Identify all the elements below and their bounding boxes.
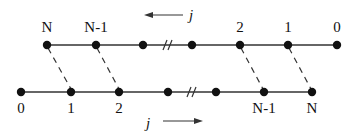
bottom-node-1 bbox=[67, 88, 75, 96]
top-node-2 bbox=[236, 41, 244, 49]
top-label-1: 1 bbox=[284, 19, 292, 35]
bottom-node-N bbox=[308, 88, 316, 96]
top-node-N-1 bbox=[92, 41, 100, 49]
top-label-N-1: N-1 bbox=[84, 19, 107, 35]
link-N bbox=[48, 48, 71, 89]
top-direction-label: j bbox=[187, 7, 193, 23]
bottom-label-0: 0 bbox=[17, 100, 25, 116]
bottom-node-0 bbox=[17, 88, 25, 96]
bottom-node-mid1 bbox=[164, 88, 172, 96]
top-node-mid1 bbox=[139, 41, 147, 49]
bottom-direction-arrow-icon bbox=[163, 118, 203, 124]
dashed-connections bbox=[48, 48, 311, 89]
bottom-label-1: 1 bbox=[67, 100, 75, 116]
top-node-mid2 bbox=[188, 41, 196, 49]
link-0 bbox=[289, 48, 311, 89]
bottom-label-N: N bbox=[307, 100, 318, 116]
link-1 bbox=[241, 48, 263, 89]
top-direction-arrow-icon bbox=[144, 12, 183, 18]
bottom-direction-label: j bbox=[144, 115, 150, 131]
bottom-label-2: 2 bbox=[115, 100, 123, 116]
top-node-N bbox=[43, 41, 51, 49]
top-label-2: 2 bbox=[236, 19, 244, 35]
top-node-1 bbox=[284, 41, 292, 49]
top-label-N: N bbox=[42, 19, 53, 35]
bottom-label-N-1: N-1 bbox=[252, 100, 275, 116]
top-node-0 bbox=[333, 41, 341, 49]
link-N-1 bbox=[97, 48, 119, 89]
lattice-diagram: N N-1 2 1 0 0 1 2 N-1 N j j bbox=[0, 0, 356, 138]
bottom-node-2 bbox=[115, 88, 123, 96]
top-label-0: 0 bbox=[333, 19, 341, 35]
bottom-node-N-1 bbox=[260, 88, 268, 96]
bottom-node-mid2 bbox=[212, 88, 220, 96]
